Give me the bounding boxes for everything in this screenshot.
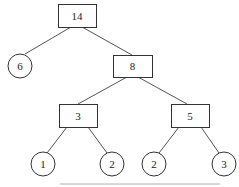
edge-5-2 bbox=[159, 127, 179, 153]
edge-8-5 bbox=[138, 77, 187, 104]
node-leaf-1: 1 bbox=[31, 152, 55, 176]
edge-3-2 bbox=[88, 127, 107, 153]
caption-cutoff bbox=[60, 183, 220, 185]
node-label: 5 bbox=[187, 110, 193, 122]
node-internal-3: 3 bbox=[60, 105, 98, 128]
node-label: 14 bbox=[72, 10, 84, 22]
node-internal-8: 8 bbox=[114, 56, 153, 78]
edge-3-1 bbox=[47, 127, 67, 153]
node-label: 8 bbox=[130, 60, 136, 72]
node-leaf-2a: 2 bbox=[100, 152, 124, 176]
node-label: 6 bbox=[17, 60, 23, 72]
node-leaf-6: 6 bbox=[8, 54, 32, 78]
edge-14-6 bbox=[25, 27, 71, 54]
node-label: 3 bbox=[221, 158, 227, 170]
node-leaf-2b: 2 bbox=[142, 152, 166, 176]
node-label: 1 bbox=[40, 158, 46, 170]
node-label: 3 bbox=[75, 110, 81, 122]
node-root-14: 14 bbox=[59, 5, 97, 28]
node-internal-5: 5 bbox=[172, 105, 210, 128]
node-label: 2 bbox=[151, 158, 157, 170]
edge-8-3 bbox=[78, 77, 127, 104]
node-label: 2 bbox=[109, 158, 115, 170]
node-leaf-3: 3 bbox=[212, 152, 236, 176]
tree-diagram: 14 6 8 3 5 1 2 2 3 bbox=[0, 0, 239, 187]
edges bbox=[25, 27, 219, 153]
edge-14-8 bbox=[82, 27, 132, 55]
edge-5-3 bbox=[201, 127, 219, 153]
